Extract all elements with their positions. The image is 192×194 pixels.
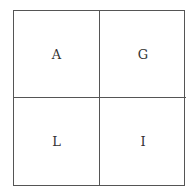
- grid-cell-top-right: G: [100, 11, 186, 98]
- grid-cell-top-left: A: [14, 11, 100, 98]
- grid-cell-bottom-right: I: [100, 98, 186, 185]
- letter-grid: A G L I: [13, 10, 185, 186]
- grid-cell-bottom-left: L: [14, 98, 100, 185]
